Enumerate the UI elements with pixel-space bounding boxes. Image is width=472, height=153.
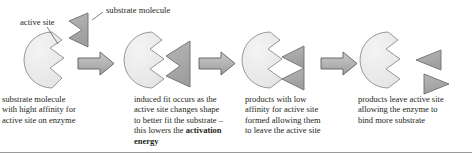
product-shape-lower-stage4 <box>424 74 449 94</box>
caption-stage-1: substrate molecule with hight affinity f… <box>2 94 114 125</box>
substrate-shape-stage2 <box>166 41 190 87</box>
caption-stage-3: products with low affinity for active si… <box>245 94 353 136</box>
enzyme-shape-stage3 <box>242 32 282 88</box>
arrow-stage3-to-stage4 <box>321 52 357 75</box>
product-shape-lower-stage3 <box>282 68 304 90</box>
substrate-molecule-leader-line <box>92 12 103 20</box>
enzyme-shape-stage4 <box>360 32 400 88</box>
stage-4-products-released <box>360 32 449 94</box>
arrow-stage1-to-stage2 <box>78 52 114 75</box>
product-shape-upper-stage3 <box>282 46 304 68</box>
stage-3-products-formed <box>242 32 304 90</box>
callout-active-site: active site <box>20 17 55 27</box>
stage-2-induced-fit-complex <box>124 32 190 88</box>
product-shape-upper-stage4 <box>416 50 441 70</box>
arrow-stage2-to-stage3 <box>199 52 235 75</box>
caption-stage-2: induced fit occurs as the active site ch… <box>134 94 246 146</box>
callout-substrate-molecule: substrate molecule <box>106 5 170 15</box>
substrate-shape-stage1 <box>69 13 88 47</box>
caption-stage-4: products leave active site allowing the … <box>358 94 470 125</box>
bottom-rule <box>0 152 472 153</box>
enzyme-shape-stage2 <box>124 32 164 88</box>
enzyme-shape-stage1 <box>24 32 64 88</box>
